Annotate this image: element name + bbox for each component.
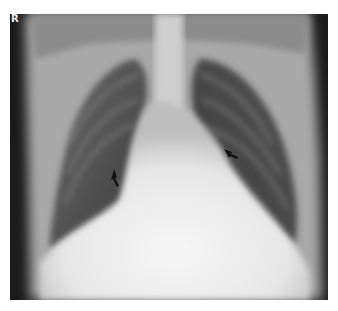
orientation-marker: R [11, 14, 18, 24]
chest-xray-image: R [10, 14, 328, 300]
xray-render [10, 14, 328, 300]
